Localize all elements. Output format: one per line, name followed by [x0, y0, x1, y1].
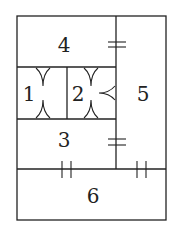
label-region-6: 6	[87, 184, 100, 208]
angle-mark-1-top	[36, 68, 50, 86]
angle-mark-2-bottom	[84, 100, 98, 118]
label-region-1: 1	[23, 82, 36, 106]
angle-mark-2-right	[99, 86, 115, 100]
label-region-2: 2	[72, 82, 85, 106]
tick-mark-3-5	[108, 139, 126, 145]
tick-mark-4-5	[108, 42, 126, 47]
angle-mark-2-top	[84, 68, 98, 86]
label-region-5: 5	[137, 82, 150, 106]
label-region-3: 3	[58, 128, 71, 152]
angle-mark-1-bottom	[36, 100, 50, 118]
partition-diagram: 4 1 2 5 3 6	[0, 0, 180, 227]
label-region-4: 4	[58, 33, 71, 57]
